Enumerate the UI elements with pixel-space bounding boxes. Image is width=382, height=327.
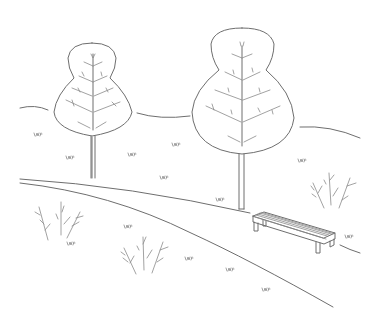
right-shrub <box>311 173 356 208</box>
grass-tuft-icon <box>216 198 224 201</box>
middle-shrub <box>121 237 168 274</box>
grass-tuft-icon <box>172 143 180 146</box>
path-upper-edge-right <box>340 245 360 253</box>
grass-tuft-icon <box>128 153 136 156</box>
grass-tuft-icon <box>185 257 193 260</box>
right-tree <box>192 28 294 209</box>
left-tree <box>54 43 132 178</box>
park-illustration <box>0 0 382 327</box>
path-lower-edge <box>20 183 333 307</box>
hill-left <box>20 106 48 110</box>
grass-tuft-icon <box>298 159 306 162</box>
grass-tuft-icon <box>34 133 42 136</box>
grass-tuft-icon <box>67 242 75 245</box>
grass-tuft-icon <box>160 176 168 179</box>
left-shrub <box>35 202 83 240</box>
grass-tufts <box>34 133 353 291</box>
grass-tuft-icon <box>262 288 270 291</box>
hill-right <box>300 127 360 138</box>
hill-middle <box>137 113 190 117</box>
path-upper-edge <box>20 179 250 213</box>
grass-tuft-icon <box>124 225 132 228</box>
bench <box>253 212 335 253</box>
grass-tuft-icon <box>226 268 234 271</box>
grass-tuft-icon <box>66 156 74 159</box>
grass-tuft-icon <box>345 235 353 238</box>
